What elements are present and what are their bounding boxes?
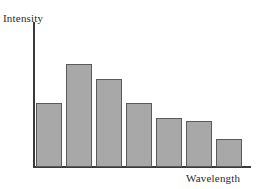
bar	[96, 79, 122, 167]
bar	[186, 121, 212, 167]
bar	[216, 139, 242, 167]
bar	[36, 103, 62, 167]
plot-area	[0, 0, 266, 189]
bar	[156, 118, 182, 167]
bar	[66, 64, 92, 167]
bar	[126, 103, 152, 167]
bar-chart: Intensity Wavelength	[0, 0, 266, 189]
